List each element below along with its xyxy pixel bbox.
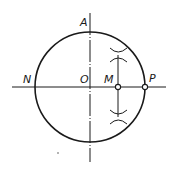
point-m-marker — [115, 84, 120, 89]
label-n: N — [23, 74, 31, 85]
construction-diagram: A N O M P — [0, 0, 173, 170]
stray-mark — [57, 152, 59, 154]
label-a: A — [80, 17, 88, 28]
label-p: P — [149, 73, 156, 84]
point-p-marker — [142, 84, 147, 89]
label-o: O — [80, 74, 89, 85]
label-m: M — [104, 74, 114, 85]
